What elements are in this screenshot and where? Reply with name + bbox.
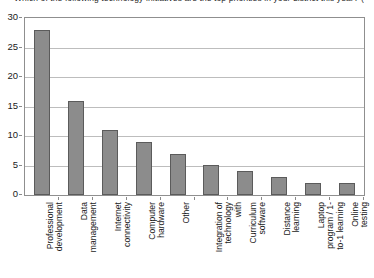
bar [237, 171, 253, 195]
y-axis-tick-mark [19, 47, 22, 48]
x-axis-tick-mark [329, 197, 330, 200]
x-axis-tick-mark [194, 197, 195, 200]
x-axis-tick-label: Other [182, 202, 191, 278]
plot-area [24, 17, 365, 196]
x-axis-tick-mark [58, 197, 59, 200]
x-axis-tick-mark [261, 197, 262, 200]
y-axis-tick-label: 30 [7, 12, 18, 22]
x-axis-label-line: software [258, 202, 267, 278]
x-axis-tick-label: Distancelearning [283, 202, 302, 278]
y-axis: 051015202530 [0, 0, 22, 278]
y-axis-tick-label: 15 [7, 101, 18, 111]
y-axis-tick-mark [19, 17, 22, 18]
x-axis-tick-label: Computerhardware [148, 202, 167, 278]
bar [136, 142, 152, 195]
x-axis-label-line: with [234, 202, 243, 278]
x-axis-label-line: hardware [157, 202, 166, 278]
x-axis-label-line: development [55, 202, 64, 278]
y-axis-tick-mark [19, 106, 22, 107]
y-axis-tick-label: 0 [13, 189, 18, 199]
chart-title: Which of the following technology initia… [14, 0, 364, 4]
bar [203, 165, 219, 195]
y-axis-tick-mark [19, 194, 22, 195]
x-axis-tick-mark [160, 197, 161, 200]
bar [68, 101, 84, 195]
x-axis-tick-mark [92, 197, 93, 200]
bar [305, 183, 321, 195]
y-axis-tick-label: 5 [13, 160, 18, 170]
bar [102, 130, 118, 195]
x-axis-tick-label: Curriculumsoftware [249, 202, 268, 278]
x-axis-tick-label: Laptopprogram / 1-to-1 learning [317, 202, 345, 278]
bar [271, 177, 287, 195]
x-axis-tick-label: Onlinetesting [351, 202, 370, 278]
y-axis-tick-mark [19, 76, 22, 77]
x-axis-tick-label: Internetconnectivity [114, 202, 133, 278]
x-axis-tick-label: Integration oftechnologywith [215, 202, 243, 278]
x-axis-tick-mark [363, 197, 364, 200]
x-axis-label-line: testing [360, 202, 369, 278]
y-axis-tick-label: 25 [7, 42, 18, 52]
x-axis-tick-mark [295, 197, 296, 200]
x-axis-label-line: connectivity [123, 202, 132, 278]
bar [34, 30, 50, 195]
x-axis-tick-label: Professionaldevelopment [46, 202, 65, 278]
x-axis-tick-mark [227, 197, 228, 200]
x-axis-label-line: learning [292, 202, 301, 278]
x-axis-label-line: management [89, 202, 98, 278]
bars-group [25, 18, 364, 195]
x-axis-tick-label: Datamanagement [80, 202, 99, 278]
y-axis-tick-mark [19, 165, 22, 166]
y-axis-tick-label: 20 [7, 71, 18, 81]
x-axis-tick-mark [126, 197, 127, 200]
x-axis-label-line: to-1 learning [336, 202, 345, 278]
bar-chart-figure: Which of the following technology initia… [0, 0, 374, 278]
bar [339, 183, 355, 195]
bar [170, 154, 186, 195]
x-axis: ProfessionaldevelopmentDatamanagementInt… [24, 197, 365, 278]
y-axis-tick-mark [19, 135, 22, 136]
y-axis-tick-label: 10 [7, 130, 18, 140]
x-axis-label-line: Other [182, 202, 191, 278]
